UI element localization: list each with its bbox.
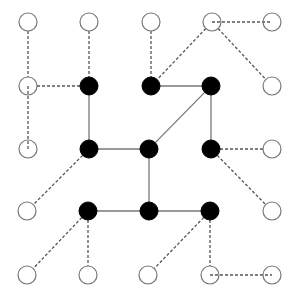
filled-node-r3c4 [202,140,220,158]
filled-node-r3c3 [140,140,158,158]
filled-node-r2c4 [202,77,220,95]
filled-node-r2c2 [80,77,98,95]
filled-node-r4c2 [79,202,97,220]
graph-diagram [0,0,298,301]
filled-node-r3c2 [80,140,98,158]
filled-node-r4c3 [140,202,158,220]
filled-node-r4c4 [201,202,219,220]
filled-node-r2c3 [142,77,160,95]
